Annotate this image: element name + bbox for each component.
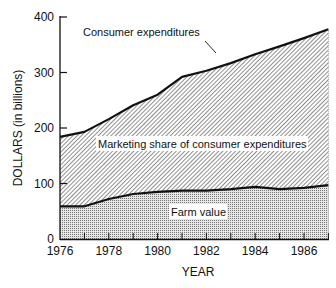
marketing-share-area	[60, 29, 328, 206]
x-tick-label: 1984	[242, 244, 269, 258]
x-tick-label: 1976	[47, 244, 74, 258]
x-axis-title: YEAR	[182, 265, 215, 279]
y-tick-label: 400	[34, 10, 54, 24]
y-tick-label: 300	[34, 66, 54, 80]
y-tick-label: 200	[34, 121, 54, 135]
x-tick-label: 1986	[291, 244, 318, 258]
x-tick-label: 1980	[144, 244, 171, 258]
consumer-expenditures-label: Consumer expenditures	[83, 26, 200, 38]
x-tick-label: 1982	[193, 244, 220, 258]
y-axis-title: DOLLARS (in billions)	[11, 70, 25, 187]
area-chart: 0100200300400 197619781980198219841986 C…	[0, 0, 336, 288]
marketing-share-label: Marketing share of consumer expenditures	[98, 138, 307, 150]
consumer-leader-line	[205, 41, 216, 53]
y-tick-label: 100	[34, 177, 54, 191]
farm-value-label: Farm value	[171, 206, 226, 218]
x-tick-label: 1978	[95, 244, 122, 258]
